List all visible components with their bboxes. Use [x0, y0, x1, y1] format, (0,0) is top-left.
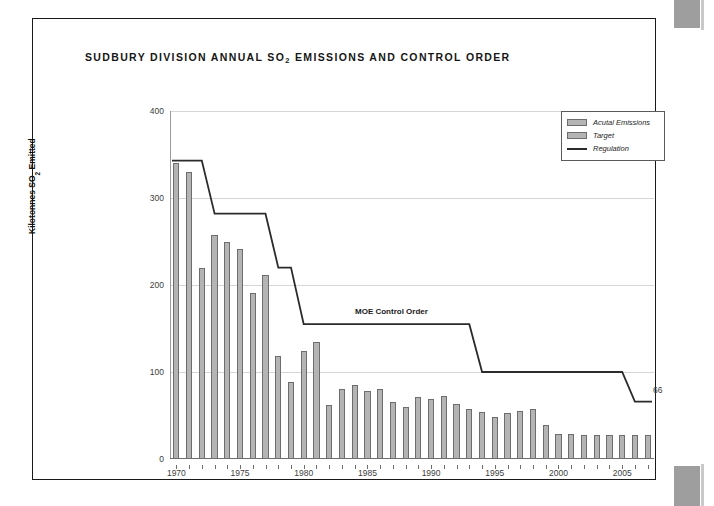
x-tick-mark-1973: [215, 465, 216, 469]
x-tick-mark-1976: [253, 465, 254, 469]
x-tick-label-1975: 1975: [231, 468, 250, 478]
chart-title-subscript: 2: [285, 56, 291, 65]
x-tick-mark-2006: [635, 465, 636, 469]
moe-control-order-annotation: MOE Control Order: [355, 307, 428, 316]
chart-title-suffix: EMISSIONS AND CONTROL ORDER: [291, 51, 511, 63]
chart-title: SUDBURY DIVISION ANNUAL SO2 EMISSIONS AN…: [85, 51, 511, 63]
y-tick-label-200: 200: [130, 280, 164, 290]
chart-legend: Acutal EmissionsTargetRegulation: [561, 111, 665, 161]
x-tick-mark-2003: [597, 465, 598, 469]
plot-area: [170, 111, 654, 459]
page-edge-slab-top: [674, 0, 700, 28]
y-tick-label-400: 400: [130, 106, 164, 116]
y-axis-tick-labels: 4003002001000: [126, 111, 164, 459]
final-value-annotation: 66: [653, 385, 662, 395]
y-axis-title: Kilotonnes SO2 Emitted: [27, 138, 39, 234]
x-tick-label-1980: 1980: [294, 468, 313, 478]
x-tick-mark-1984: [355, 465, 356, 469]
x-tick-mark-1986: [380, 465, 381, 469]
y-axis-title-suffix: Emitted: [27, 138, 37, 172]
x-tick-mark-1974: [227, 465, 228, 469]
y-tick-label-300: 300: [130, 193, 164, 203]
x-tick-mark-1991: [444, 465, 445, 469]
legend-bar-swatch-icon: [567, 119, 587, 126]
x-tick-label-2000: 2000: [549, 468, 568, 478]
y-tick-label-0: 0: [130, 454, 164, 464]
legend-label-0: Acutal Emissions: [593, 118, 650, 127]
x-tick-label-1995: 1995: [485, 468, 504, 478]
y-axis-title-prefix: Kilotonnes SO: [27, 175, 37, 234]
x-tick-mark-1978: [278, 465, 279, 469]
x-tick-mark-1983: [342, 465, 343, 469]
x-tick-label-1970: 1970: [167, 468, 186, 478]
x-tick-mark-1977: [266, 465, 267, 469]
y-axis-title-subscript: 2: [34, 172, 41, 176]
y-tick-label-100: 100: [130, 367, 164, 377]
chart-title-prefix: SUDBURY DIVISION ANNUAL SO: [85, 51, 285, 63]
x-tick-mark-1981: [316, 465, 317, 469]
regulation-line: [170, 111, 654, 459]
x-tick-mark-1992: [457, 465, 458, 469]
x-tick-mark-2001: [571, 465, 572, 469]
x-tick-mark-2002: [584, 465, 585, 469]
legend-item-0: Acutal Emissions: [567, 116, 659, 129]
page-edge-rule-top: [701, 0, 704, 30]
page-edge-rule-bottom: [701, 464, 704, 506]
x-tick-mark-1979: [291, 465, 292, 469]
x-tick-mark-1987: [393, 465, 394, 469]
legend-label-1: Target: [593, 131, 614, 140]
x-tick-mark-2004: [609, 465, 610, 469]
x-tick-mark-1998: [533, 465, 534, 469]
x-axis-tick-labels: 19701975198019851990199520002005: [170, 465, 654, 481]
x-tick-label-1990: 1990: [422, 468, 441, 478]
x-tick-mark-1971: [189, 465, 190, 469]
x-tick-label-1985: 1985: [358, 468, 377, 478]
x-tick-mark-1994: [482, 465, 483, 469]
legend-line-swatch-icon: [567, 148, 587, 150]
x-tick-mark-1999: [546, 465, 547, 469]
document-page-frame: SUDBURY DIVISION ANNUAL SO2 EMISSIONS AN…: [32, 18, 656, 480]
page-edge-slab-bottom: [674, 466, 700, 506]
x-tick-mark-1989: [418, 465, 419, 469]
x-axis-line: [170, 458, 654, 459]
legend-item-1: Target: [567, 129, 659, 142]
x-tick-mark-1993: [469, 465, 470, 469]
legend-label-2: Regulation: [593, 144, 629, 153]
legend-item-2: Regulation: [567, 142, 659, 155]
x-tick-mark-2007: [648, 465, 649, 469]
x-tick-mark-1997: [520, 465, 521, 469]
x-tick-mark-1988: [406, 465, 407, 469]
legend-bar-swatch-icon: [567, 132, 587, 139]
x-tick-mark-1996: [508, 465, 509, 469]
x-tick-mark-1972: [202, 465, 203, 469]
x-tick-label-2005: 2005: [613, 468, 632, 478]
y-axis-line: [170, 111, 171, 459]
x-tick-mark-1982: [329, 465, 330, 469]
